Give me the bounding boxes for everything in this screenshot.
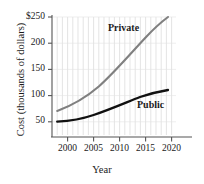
x-tick-label: 2020 bbox=[155, 143, 189, 153]
y-tick-marks bbox=[48, 17, 52, 122]
vertical-gridlines bbox=[57, 17, 171, 135]
y-axis-title: Cost (thousands of dollars) bbox=[15, 14, 26, 146]
x-axis-title: Year bbox=[0, 164, 204, 175]
x-tick-marks bbox=[68, 137, 172, 142]
chart-figure: $250 200 150 100 50 2000 2005 2010 2015 … bbox=[0, 0, 204, 184]
series-label-private: Private bbox=[108, 22, 139, 33]
series-label-public: Public bbox=[137, 99, 164, 110]
